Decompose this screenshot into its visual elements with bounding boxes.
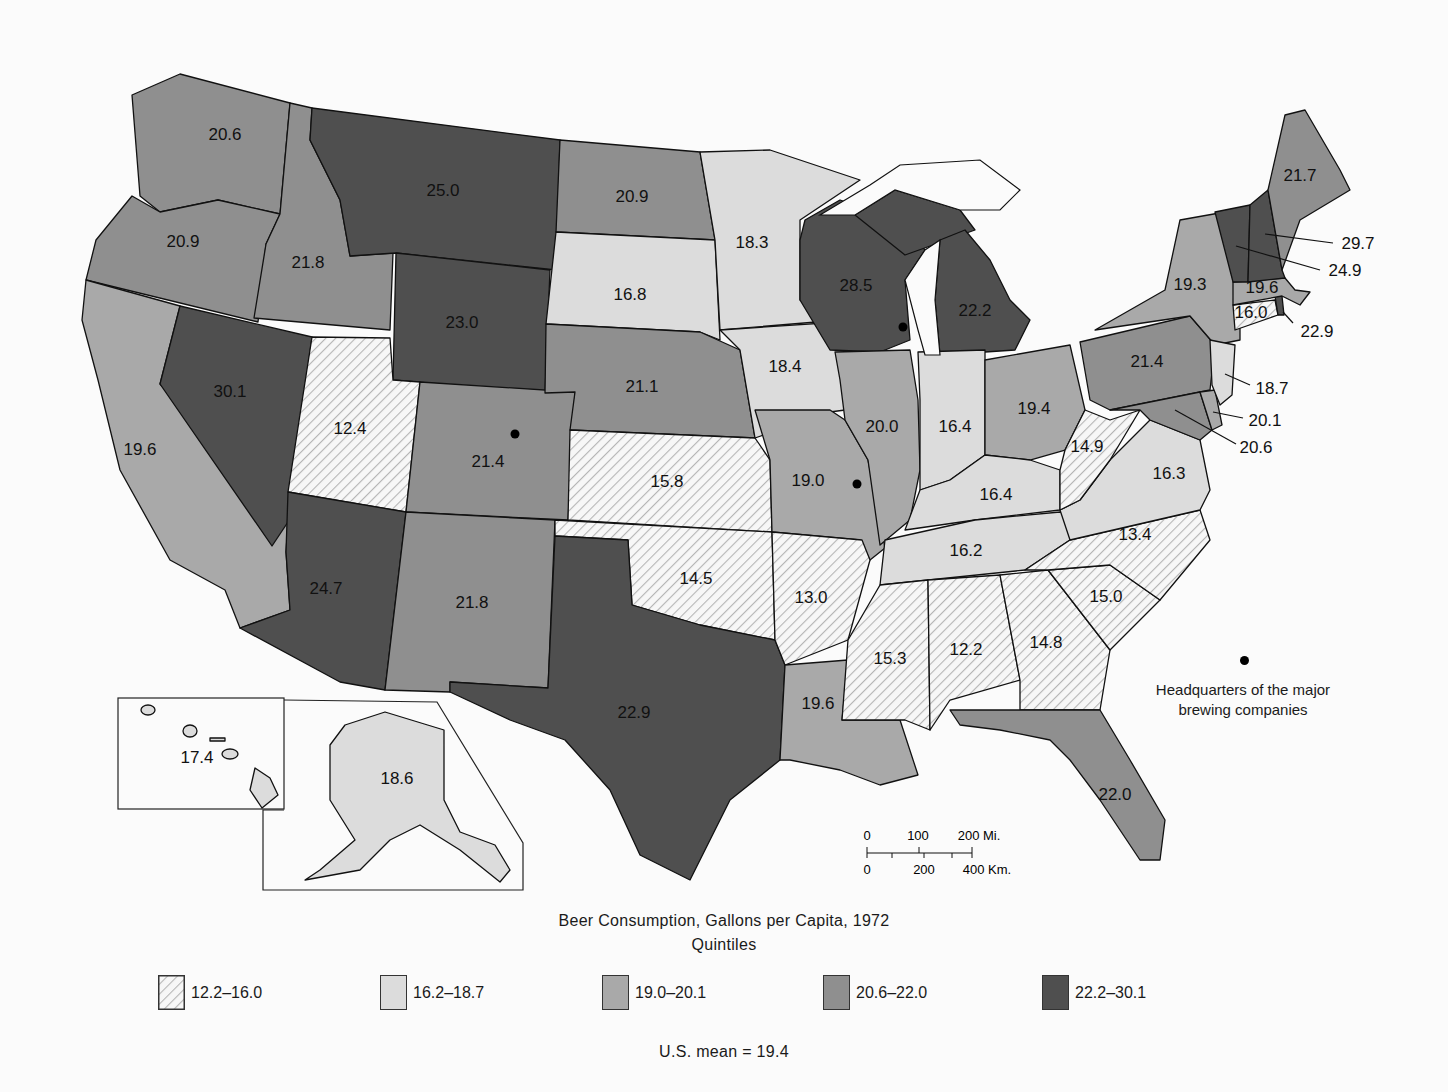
label-sc: 15.0 [1089, 587, 1122, 606]
callout-ri [1283, 312, 1293, 323]
label-ia: 18.4 [768, 357, 801, 376]
legend-item-q1: 12.2–16.0 [158, 975, 262, 1010]
label-va: 16.3 [1152, 464, 1185, 483]
label-mt: 25.0 [426, 181, 459, 200]
svg-text:200: 200 [913, 862, 935, 877]
label-me: 21.7 [1283, 166, 1316, 185]
swatch-icon [380, 975, 407, 1010]
label-ky: 16.4 [979, 485, 1012, 504]
label-ut: 12.4 [333, 419, 366, 438]
label-ga: 14.8 [1029, 633, 1062, 652]
label-ar: 13.0 [794, 588, 827, 607]
legend-label-q2: 16.2–18.7 [413, 984, 484, 1002]
legend-item-q3: 19.0–20.1 [602, 975, 706, 1010]
us-mean-note: U.S. mean = 19.4 [0, 1043, 1448, 1061]
label-wy: 23.0 [445, 313, 478, 332]
hq-legend-line2: brewing companies [1128, 700, 1358, 720]
swatch-icon [1042, 975, 1069, 1010]
label-ma: 19.6 [1245, 278, 1278, 297]
label-oh: 19.4 [1017, 399, 1050, 418]
legend-label-q4: 20.6–22.0 [856, 984, 927, 1002]
label-in: 16.4 [938, 417, 971, 436]
label-la: 19.6 [801, 694, 834, 713]
hq-legend-dot-icon [1240, 656, 1249, 665]
legend-item-q2: 16.2–18.7 [380, 975, 484, 1010]
hq-dot-wisconsin [899, 323, 908, 332]
scale-bar: 0 100 200 Mi. 0 200 400 Km. [862, 828, 1022, 881]
state-co [406, 382, 575, 520]
hatch-swatch-icon [158, 975, 185, 1010]
label-ak: 18.6 [380, 769, 413, 788]
label-ri: 22.9 [1300, 322, 1333, 341]
label-nc: 13.4 [1118, 525, 1151, 544]
label-co: 21.4 [471, 452, 504, 471]
label-de: 20.1 [1248, 411, 1281, 430]
label-wa: 20.6 [208, 125, 241, 144]
svg-text:200 Mi.: 200 Mi. [958, 828, 1001, 843]
label-sd: 16.8 [613, 285, 646, 304]
svg-text:400 Km.: 400 Km. [963, 862, 1011, 877]
label-vt: 24.9 [1328, 261, 1361, 280]
label-ks: 15.8 [650, 472, 683, 491]
label-nh: 29.7 [1341, 234, 1374, 253]
label-il: 20.0 [865, 417, 898, 436]
legend-label-q1: 12.2–16.0 [191, 984, 262, 1002]
label-fl: 22.0 [1098, 785, 1131, 804]
state-mi [935, 230, 1030, 355]
label-hi: 17.4 [180, 748, 213, 767]
map-title: Beer Consumption, Gallons per Capita, 19… [0, 912, 1448, 930]
label-ok: 14.5 [679, 569, 712, 588]
state-ak [305, 712, 510, 882]
hq-dot-colorado [511, 430, 520, 439]
label-pa: 21.4 [1130, 352, 1163, 371]
label-nm: 21.8 [455, 593, 488, 612]
label-md: 20.6 [1239, 438, 1272, 457]
label-wv: 14.9 [1070, 437, 1103, 456]
legend-item-q4: 20.6–22.0 [823, 975, 927, 1010]
map-subtitle: Quintiles [0, 936, 1448, 954]
label-id: 21.8 [291, 253, 324, 272]
label-tx: 22.9 [617, 703, 650, 722]
label-or: 20.9 [166, 232, 199, 251]
svg-text:100: 100 [907, 828, 929, 843]
swatch-icon [602, 975, 629, 1010]
label-mo: 19.0 [791, 471, 824, 490]
label-ne: 21.1 [625, 377, 658, 396]
label-az: 24.7 [309, 579, 342, 598]
legend: 12.2–16.0 16.2–18.7 19.0–20.1 20.6–22.0 … [0, 975, 1448, 1015]
label-mi: 22.2 [958, 301, 991, 320]
label-nv: 30.1 [213, 382, 246, 401]
label-ca: 19.6 [123, 440, 156, 459]
hq-legend-line1: Headquarters of the major [1128, 680, 1358, 700]
svg-text:0: 0 [863, 828, 870, 843]
label-ny: 19.3 [1173, 275, 1206, 294]
label-wi: 28.5 [839, 276, 872, 295]
label-ct: 16.0 [1234, 303, 1267, 322]
swatch-icon [823, 975, 850, 1010]
label-nd: 20.9 [615, 187, 648, 206]
legend-label-q5: 22.2–30.1 [1075, 984, 1146, 1002]
label-mn: 18.3 [735, 233, 768, 252]
label-tn: 16.2 [949, 541, 982, 560]
legend-label-q3: 19.0–20.1 [635, 984, 706, 1002]
state-me [1268, 110, 1350, 270]
scale-bar-graphic: 0 100 200 Mi. 0 200 400 Km. [862, 828, 1022, 878]
label-al: 12.2 [949, 640, 982, 659]
hq-legend-label: Headquarters of the major brewing compan… [1128, 680, 1358, 720]
svg-text:0: 0 [863, 862, 870, 877]
hq-dot-missouri [853, 480, 862, 489]
legend-item-q5: 22.2–30.1 [1042, 975, 1146, 1010]
label-nj: 18.7 [1255, 379, 1288, 398]
label-ms: 15.3 [873, 649, 906, 668]
state-wa [132, 74, 290, 214]
